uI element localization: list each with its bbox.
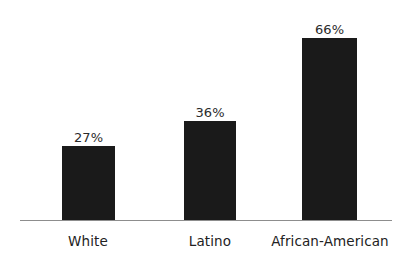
x-axis-line bbox=[20, 220, 392, 221]
bar-chart: 27% 36% 66% White Latino African-America… bbox=[0, 0, 414, 260]
bar-african-american bbox=[302, 38, 357, 220]
bar-white bbox=[62, 146, 115, 220]
bar-value-label-latino: 36% bbox=[184, 106, 236, 120]
plot-area: 27% 36% 66% White Latino African-America… bbox=[0, 0, 414, 260]
category-label-african-american: African-American bbox=[270, 233, 390, 250]
category-label-latino: Latino bbox=[160, 233, 260, 250]
bar-value-label-african-american: 66% bbox=[302, 23, 357, 37]
bar-value-label-white: 27% bbox=[62, 131, 115, 145]
bar-latino bbox=[184, 121, 236, 220]
category-label-white: White bbox=[38, 233, 138, 250]
